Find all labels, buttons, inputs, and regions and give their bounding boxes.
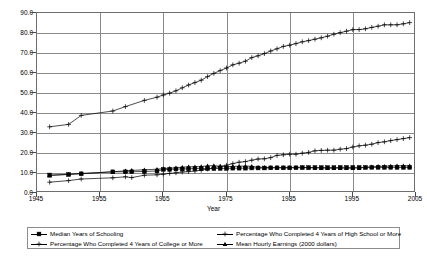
y-axis-tick-label: 70.0 [0,49,33,56]
legend-item-label: Percentage Who Completed 4 Years of Coll… [50,239,216,249]
legend-column-left: Median Years of SchoolingPercentage Who … [30,229,216,249]
y-axis-tick-label: 20.0 [0,149,33,156]
series-1 [47,20,412,129]
x-axis-tick-mark [36,192,37,197]
y-axis-tick-label: 30.0 [0,129,33,136]
y-axis-tick-label: 10.0 [0,169,33,176]
chart-legend: Median Years of SchoolingPercentage Who … [27,227,400,249]
legend-item: Median Years of Schooling [30,229,216,239]
x-axis-tick-label: 2005 [395,195,427,203]
legend-marker-plus-icon [30,239,48,249]
series-line [50,167,410,175]
x-axis-tick-mark [352,192,353,197]
x-axis-tick-mark [99,192,100,197]
plot-area [36,12,415,192]
legend-column-right: Percentage Who Completed 4 Years of High… [216,229,402,249]
series-2 [47,135,412,184]
y-axis-tick-label: 80.0 [0,29,33,36]
x-axis-tick-mark [415,192,416,197]
y-axis-tick-label: 60.0 [0,69,33,76]
line-chart: 0.010.020.030.040.050.060.070.080.090.0 … [0,0,427,260]
legend-item: Percentage Who Completed 4 Years of Coll… [30,239,216,249]
series-layer [37,13,416,193]
series-0 [48,166,412,177]
legend-marker-triangle-icon [216,239,234,249]
series-line [50,138,410,183]
legend-item: Mean Hourly Earnings (2000 dollars) [216,239,402,249]
y-axis-tick-label: 40.0 [0,109,33,116]
legend-marker-plus-icon [216,229,234,239]
legend-item-label: Median Years of Schooling [50,229,216,239]
legend-item-label: Mean Hourly Earnings (2000 dollars) [236,239,402,249]
y-axis-tick-label: 90.0 [0,9,33,16]
legend-item: Percentage Who Completed 4 Years of High… [216,229,402,239]
y-axis-tick-label: 50.0 [0,89,33,96]
series-line [50,23,410,127]
x-axis-tick-mark [289,192,290,197]
x-axis-title: Year [0,205,427,212]
legend-marker-square-icon [30,229,48,239]
x-axis-tick-mark [162,192,163,197]
x-axis-tick-mark [226,192,227,197]
legend-item-label: Percentage Who Completed 4 Years of High… [236,229,402,239]
